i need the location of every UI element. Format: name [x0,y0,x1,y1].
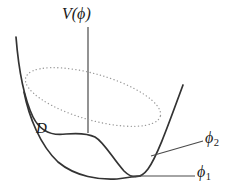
domain-wall-label: D [36,121,47,136]
potential-figure: V(ϕ) D ϕ2 ϕ1 [0,0,236,193]
phi1-symbol: ϕ [197,163,205,180]
phi2-symbol: ϕ [205,129,213,146]
phi1-subscript: 1 [206,171,211,182]
phi2-label: ϕ2 [205,130,219,149]
phi2-subscript: 2 [214,137,219,148]
phi1-label: ϕ1 [197,164,211,183]
vertical-axis-label: V(ϕ) [62,6,91,22]
upper-potential-curve [16,37,183,177]
